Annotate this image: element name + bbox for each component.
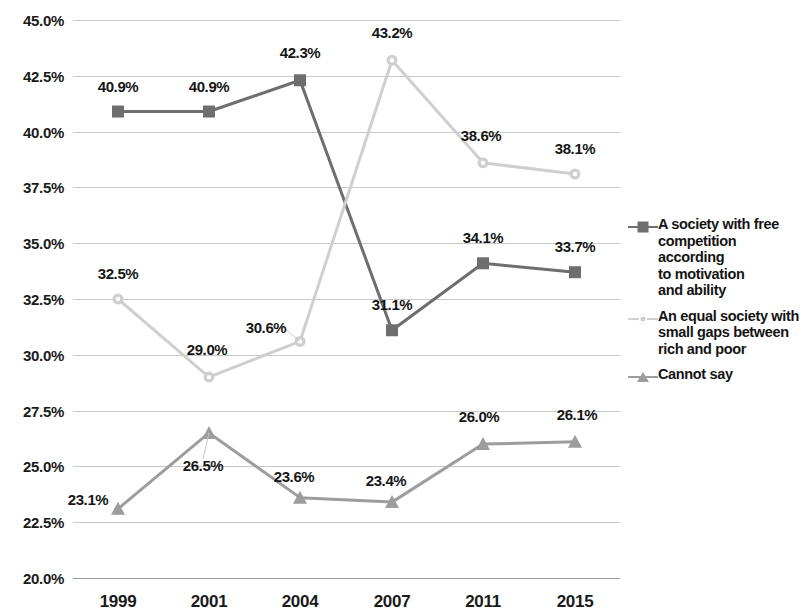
x-axis-tick-label: 2001 — [191, 592, 228, 612]
series-line — [118, 60, 575, 377]
legend-label: A society with freecompetition according… — [658, 216, 800, 299]
legend-item-0[interactable]: A society with freecompetition according… — [628, 216, 800, 299]
series-line — [118, 80, 575, 330]
data-point-label: 26.0% — [459, 408, 500, 425]
data-point-label: 31.1% — [372, 296, 413, 313]
series-circle — [113, 55, 581, 383]
x-axis-tick-label: 2004 — [282, 592, 319, 612]
data-point-marker — [112, 106, 124, 118]
legend-item-1[interactable]: An equal society withsmall gaps betweenr… — [628, 308, 800, 358]
legend-item-2[interactable]: Cannot say — [628, 366, 800, 387]
chart-legend: A society with freecompetition according… — [628, 216, 800, 396]
data-point-label: 23.1% — [68, 490, 109, 507]
data-point-label: 40.9% — [189, 77, 230, 94]
legend-marker-circle-icon — [628, 309, 658, 329]
x-axis-tick-label: 2011 — [465, 592, 501, 612]
series-triangle — [111, 426, 582, 515]
line-chart: 45.0%42.5%40.0%37.5%35.0%32.5%30.0%27.5%… — [0, 0, 804, 616]
x-axis-tick-label: 2015 — [557, 592, 594, 612]
data-point-marker — [203, 106, 215, 118]
data-point-marker — [294, 74, 306, 86]
data-point-label: 32.5% — [98, 265, 139, 282]
data-point-label: 33.7% — [555, 238, 596, 255]
data-point-marker — [204, 372, 215, 383]
legend-label-line: A society with free — [658, 216, 800, 233]
legend-marker-square-icon — [628, 217, 658, 237]
legend-label-line: Cannot say — [658, 366, 733, 383]
data-point-marker — [202, 426, 216, 439]
data-point-label: 43.2% — [372, 24, 413, 41]
data-point-marker — [477, 257, 489, 269]
legend-marker-triangle-icon — [628, 367, 658, 387]
legend-label-line: rich and poor — [658, 341, 799, 358]
legend-label-line: small gaps between — [658, 324, 799, 341]
data-point-marker — [113, 294, 124, 305]
data-point-label: 29.0% — [187, 341, 228, 358]
data-point-label: 40.9% — [98, 77, 139, 94]
data-point-marker — [570, 169, 581, 180]
data-point-label: 23.6% — [274, 467, 315, 484]
legend-label: Cannot say — [658, 366, 733, 383]
data-point-label: 26.5% — [183, 456, 224, 473]
legend-label-line: and ability — [658, 282, 800, 299]
legend-label: An equal society withsmall gaps betweenr… — [658, 308, 799, 358]
data-point-marker — [386, 324, 398, 336]
data-point-marker — [478, 157, 489, 168]
series-square — [112, 74, 581, 336]
data-point-marker — [569, 266, 581, 278]
data-point-label: 30.6% — [246, 319, 287, 336]
x-axis-tick-label: 1999 — [100, 592, 137, 612]
legend-label-line: An equal society with — [658, 308, 799, 325]
data-point-label: 34.1% — [463, 229, 504, 246]
data-point-label: 38.6% — [461, 126, 502, 143]
x-axis-tick-label: 2007 — [374, 592, 411, 612]
data-point-label: 23.4% — [366, 472, 407, 489]
legend-label-line: competition according — [658, 233, 800, 266]
data-point-marker — [387, 55, 398, 66]
legend-label-line: to motivation — [658, 266, 800, 283]
data-point-label: 26.1% — [557, 405, 598, 422]
data-point-label: 42.3% — [280, 44, 321, 61]
data-point-label: 38.1% — [555, 140, 596, 157]
